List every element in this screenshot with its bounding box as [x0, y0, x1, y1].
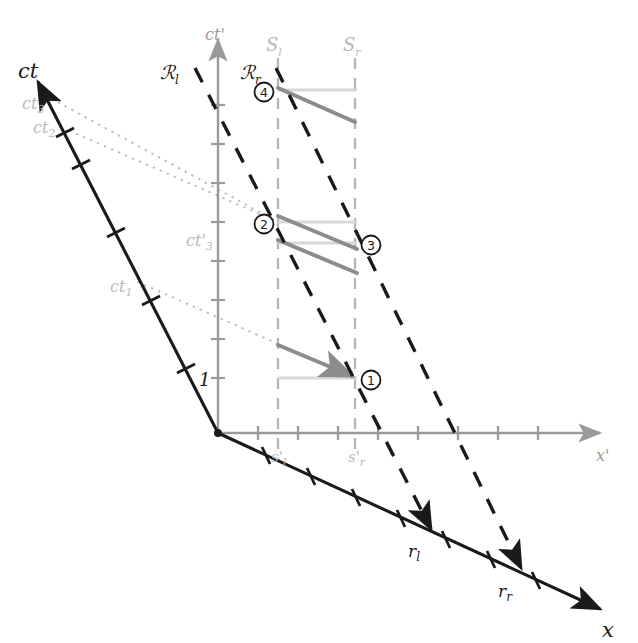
event-marker-2[interactable]: 2	[255, 215, 274, 234]
Rr-frame-label: ℛr	[240, 61, 262, 87]
rocket-worldline-Rl	[195, 68, 431, 529]
xprime-axis-label: x'	[596, 446, 609, 465]
event-marker-1[interactable]: 1	[362, 371, 381, 390]
ct-axis-label: ct	[18, 59, 39, 83]
Rl-frame-label: ℛl	[160, 61, 179, 87]
ct2-label: ct2	[33, 118, 55, 140]
signal-worldline-1	[278, 345, 352, 376]
event-marker-1-label: 1	[367, 373, 375, 388]
ctprime-axis-label: ct'	[205, 25, 225, 44]
Sr-mirror-label: 𝑆r	[343, 34, 361, 59]
rr-label: rr	[498, 581, 513, 604]
ct-axis-line	[38, 82, 218, 433]
event-marker-4-label: 4	[260, 85, 268, 100]
x-axis-label: x	[602, 618, 614, 642]
event-markers: 4 2 3 1	[255, 83, 381, 390]
sprime-l-label: s'l	[271, 448, 287, 469]
event-marker-2-label: 2	[260, 217, 268, 232]
sprime-r-label: s'r	[348, 448, 366, 469]
rocket-worldline-Rr	[276, 68, 521, 568]
diagram-labels: ct x ct' x' ct3 ct2 ct1 ct'3 1 s'l	[18, 25, 614, 642]
Sl-mirror-label: 𝑆l	[266, 34, 282, 59]
spacetime-diagram-figure: 4 2 3 1 ct x ct' x' ct3	[0, 0, 638, 643]
signal-worldlines	[278, 88, 357, 376]
ctprime3-label: ct'3	[186, 231, 213, 253]
rl-label: rl	[408, 541, 420, 564]
event-marker-3[interactable]: 3	[362, 236, 381, 255]
event-marker-3-label: 3	[367, 238, 375, 253]
signal-worldline-4	[278, 88, 355, 122]
ctprime-unit-label: 1	[199, 369, 210, 390]
ct1-label: ct1	[110, 277, 132, 299]
unprimed-axes	[38, 82, 600, 609]
diagram-canvas: 4 2 3 1 ct x ct' x' ct3	[0, 0, 638, 643]
origin-point	[214, 429, 222, 437]
ct3-label: ct3	[22, 94, 44, 116]
rocket-worldlines	[195, 68, 521, 568]
